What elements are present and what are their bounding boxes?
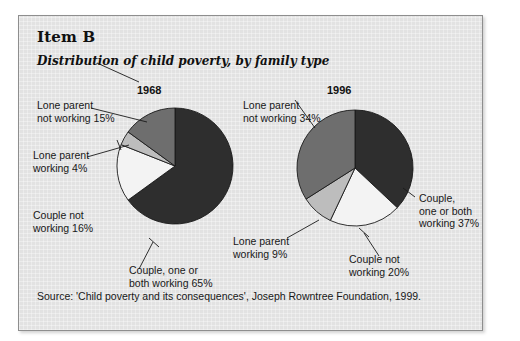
item-heading: Item B xyxy=(37,28,95,46)
chart-subtitle: Distribution of child poverty, by family… xyxy=(37,54,329,68)
label-couple-not-working-1968: Couple not working 16% xyxy=(33,209,93,234)
label-couple-working-1996: Couple, one or both working 37% xyxy=(419,192,479,230)
label-couple-working-1968: Couple, one or both working 65% xyxy=(129,264,212,289)
label-lp-not-working-1968: Lone parent not working 15% xyxy=(37,99,115,124)
chart-year-label-1968: 1968 xyxy=(137,84,161,96)
label-lp-not-working-1996: Lone parent not working 34% xyxy=(243,99,321,124)
item-panel: Item B Distribution of child poverty, by… xyxy=(18,15,483,331)
page-canvas: Item B Distribution of child poverty, by… xyxy=(0,0,520,341)
chart-year-label-1996: 1996 xyxy=(327,84,351,96)
label-lp-working-1996: Lone parent working 9% xyxy=(233,235,289,260)
source-note: Source: 'Child poverty and its consequen… xyxy=(37,290,421,302)
pie-1968-svg xyxy=(105,96,245,236)
pie-chart-1968 xyxy=(105,96,245,236)
leader-tick-couple-working-1968 xyxy=(149,238,159,247)
label-lp-working-1968: Lone parent working 4% xyxy=(33,149,89,174)
label-couple-not-working-1996: Couple not working 20% xyxy=(349,253,409,278)
